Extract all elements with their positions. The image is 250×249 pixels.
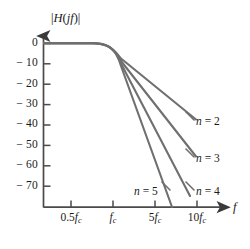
y-axis-bar-right: | (78, 11, 81, 25)
x-tick-5fc-subscript: c (158, 216, 162, 225)
curve-annotation-n5-value: 5 (152, 185, 158, 197)
curve-annotation-n4-value: 4 (214, 185, 220, 197)
curve-annotation-n3-value: 3 (214, 152, 220, 164)
filter-response-figure: |H(jf)| 0 − 10 − 20 − 30 − 40 − 50 − 60 … (0, 0, 250, 249)
x-tick-fc-subscript: c (113, 216, 117, 225)
y-tick-label-neg70: − 70 (8, 180, 38, 192)
response-curves (44, 43, 196, 207)
y-axis-title: |H(jf)| (51, 12, 80, 25)
y-tick-label-neg30: − 30 (8, 98, 38, 110)
x-tick-10fc-subscript: c (203, 216, 207, 225)
curve-annotation-n3-symbol: n (196, 152, 202, 164)
curve-annotation-n2-value: 2 (214, 115, 220, 127)
x-tick-label-fc: fc (98, 212, 128, 226)
curve-annotation-n4-equals: = (205, 185, 212, 197)
x-tick-label-10fc: 10fc (178, 212, 216, 226)
x-tick-half-fc-number: 0.5 (60, 211, 74, 223)
curve-annotation-n3: n = 3 (196, 153, 220, 165)
curve-annotation-n3-equals: = (205, 152, 212, 164)
curve-annotation-n4: n = 4 (196, 186, 220, 198)
curve-annotation-n5-symbol: n (134, 185, 140, 197)
x-tick-half-fc-subscript: c (78, 216, 82, 225)
x-tick-label-5fc: 5fc (138, 212, 172, 226)
y-tick-label-0: 0 (8, 37, 38, 49)
curve-annotation-n2: n = 2 (196, 116, 220, 128)
y-tick-label-neg10: − 10 (8, 57, 38, 69)
x-tick-label-half-fc: 0.5fc (51, 212, 91, 226)
curve-annotation-n5: n = 5 (134, 186, 158, 198)
curve-annotation-n5-equals: = (143, 185, 150, 197)
x-axis-ticks (71, 201, 197, 208)
x-tick-10fc-number: 10 (188, 211, 200, 223)
x-axis-title: f (233, 201, 236, 214)
curve-n2 (44, 43, 196, 119)
y-axis-h: H (54, 11, 63, 25)
curve-annotation-n4-symbol: n (196, 185, 202, 197)
y-tick-label-neg40: − 40 (8, 118, 38, 130)
y-tick-label-neg50: − 50 (8, 139, 38, 151)
y-tick-label-neg20: − 20 (8, 78, 38, 90)
y-tick-label-neg60: − 60 (8, 159, 38, 171)
y-axis-ticks (44, 43, 51, 186)
curve-annotation-n2-symbol: n (196, 115, 202, 127)
curve-annotation-n2-equals: = (205, 115, 212, 127)
